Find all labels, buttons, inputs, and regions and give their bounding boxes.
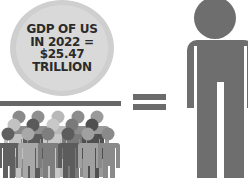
single-person-icon xyxy=(0,0,248,178)
